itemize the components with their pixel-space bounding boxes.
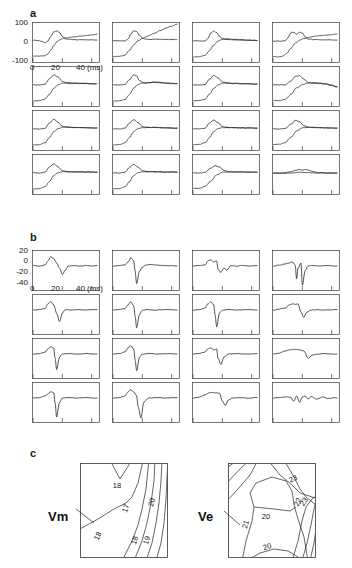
waveform-trace (274, 76, 338, 87)
panel-a-cell-r3c2 (192, 154, 260, 195)
waveform-trace (194, 39, 258, 57)
contour-map-ve: 232021202223 (228, 463, 316, 558)
panel-b-cell-r0c2 (192, 250, 260, 291)
waveform-trace (194, 31, 258, 41)
plot-frame (273, 251, 340, 291)
panel-a-cell-r0c0 (32, 22, 100, 63)
waveform-trace (114, 302, 178, 328)
panel-a-cell-r2c0 (32, 110, 100, 151)
waveform-trace (114, 346, 178, 371)
panel-a-cell-r1c2 (192, 66, 260, 107)
waveform-trace (34, 172, 98, 189)
waveform-trace (114, 127, 178, 145)
panel-a-cell-r0c3 (272, 22, 340, 63)
waveform-trace (34, 127, 98, 145)
panel-b-ytick-0: 0 (2, 257, 28, 265)
plot-frame (193, 111, 260, 151)
waveform-trace (194, 348, 258, 365)
plot-frame (113, 383, 180, 423)
panel-letter-b: b (30, 232, 37, 243)
waveform-trace (274, 127, 338, 144)
panel-a-ytick-neg100: -100 (0, 57, 28, 65)
plot-frame (33, 23, 100, 63)
waveform-trace (114, 31, 178, 41)
panel-b-cell-r1c0 (32, 294, 100, 335)
plot-frame (273, 67, 340, 107)
waveform-trace (194, 172, 258, 189)
waveform-trace (274, 262, 338, 285)
waveform-trace (34, 34, 98, 56)
waveform-trace (274, 304, 338, 318)
plot-frame (113, 67, 180, 107)
plot-frame (113, 23, 180, 63)
plot-frame (113, 295, 180, 335)
plot-frame (193, 23, 260, 63)
plot-frame (193, 155, 260, 195)
panel-b-cell-r1c3 (272, 294, 340, 335)
panel-letter-a: a (30, 8, 36, 19)
plot-frame (193, 339, 260, 379)
panel-b-ytick-neg40: -40 (0, 279, 28, 287)
panel-a-cell-r2c1 (112, 110, 180, 151)
waveform-trace (194, 392, 258, 405)
plot-frame (33, 251, 100, 291)
waveform-trace (34, 31, 98, 43)
waveform-trace (34, 347, 98, 370)
panel-b-cell-r0c1 (112, 250, 180, 291)
waveform-trace (114, 390, 178, 418)
panel-b-cell-r3c3 (272, 382, 340, 423)
panel-b-cell-r0c0 (32, 250, 100, 291)
waveform-trace (114, 172, 178, 189)
panel-a-cell-r2c3 (272, 110, 340, 151)
panel-b-cell-r3c0 (32, 382, 100, 423)
plot-frame (193, 67, 260, 107)
map-frame (229, 464, 316, 558)
panel-a-cell-r1c0 (32, 66, 100, 107)
panel-b-cell-r1c1 (112, 294, 180, 335)
plot-frame (273, 339, 340, 379)
panel-a-cell-r0c1 (112, 22, 180, 63)
waveform-trace (274, 396, 338, 402)
plot-frame (273, 155, 340, 195)
waveform-trace (274, 83, 338, 101)
panel-b-cell-r2c1 (112, 338, 180, 379)
plot-frame (33, 383, 100, 423)
plot-frame (193, 295, 260, 335)
waveform-trace (194, 127, 258, 144)
waveform-trace (114, 75, 178, 85)
plot-frame (33, 67, 100, 107)
waveform-trace (194, 260, 258, 273)
contour-label-ve-1: 20 (262, 512, 270, 521)
panel-a-cell-r2c2 (192, 110, 260, 151)
map-title-ve: Ve (198, 510, 213, 523)
plot-frame (33, 339, 100, 379)
waveform-trace (34, 392, 98, 417)
panel-b-cell-r3c2 (192, 382, 260, 423)
waveform-trace (114, 82, 178, 101)
plot-frame (273, 383, 340, 423)
plot-frame (193, 251, 260, 291)
waveform-trace (34, 302, 98, 322)
panel-b-cell-r1c2 (192, 294, 260, 335)
panel-b-cell-r2c2 (192, 338, 260, 379)
waveform-trace (114, 258, 178, 284)
plot-frame (33, 155, 100, 195)
panel-b-cell-r3c1 (112, 382, 180, 423)
panel-a-ytick-100: 100 (2, 19, 28, 27)
waveform-trace (34, 83, 98, 101)
plot-frame (113, 111, 180, 151)
map-title-vm: Vm (48, 510, 68, 523)
plot-frame (113, 251, 180, 291)
panel-a-cell-r1c1 (112, 66, 180, 107)
plot-frame (273, 111, 340, 151)
panel-b-ytick-neg20: -20 (0, 268, 28, 276)
plot-frame (273, 295, 340, 335)
panel-a-cell-r3c1 (112, 154, 180, 195)
waveform-trace (194, 83, 258, 101)
plot-frame (33, 295, 100, 335)
panel-a-cell-r3c0 (32, 154, 100, 195)
panel-b-cell-r0c3 (272, 250, 340, 291)
plot-frame (113, 339, 180, 379)
waveform-trace (194, 302, 258, 327)
waveform-trace (34, 257, 98, 275)
